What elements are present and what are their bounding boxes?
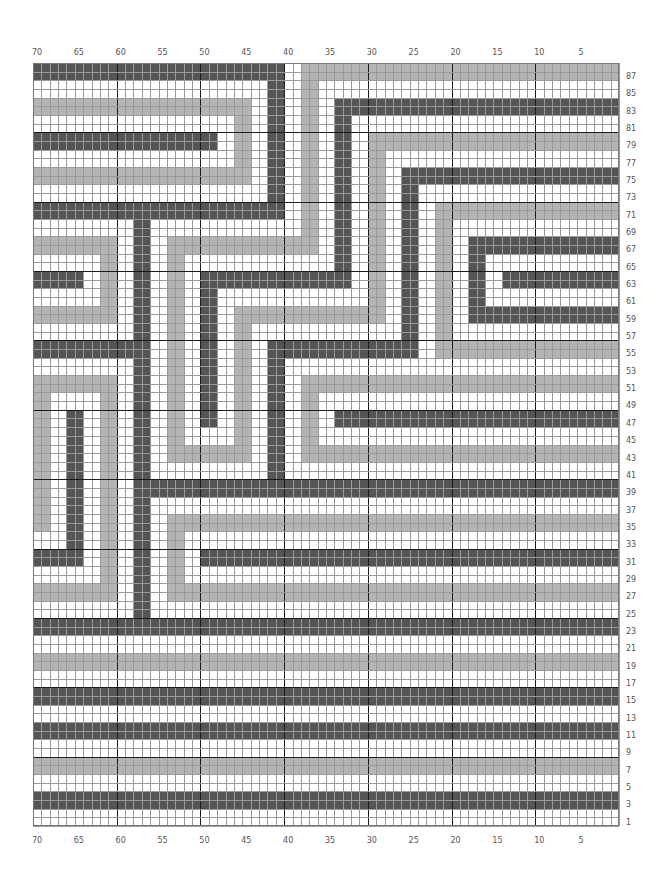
column-number-label: 45 bbox=[241, 836, 251, 845]
column-number-label: 70 bbox=[32, 836, 42, 845]
row-number-label: 79 bbox=[626, 141, 636, 150]
row-number-label: 87 bbox=[626, 72, 636, 81]
knitting-chart-grid bbox=[33, 63, 619, 826]
row-number-label: 11 bbox=[626, 730, 636, 739]
column-number-label: 35 bbox=[325, 48, 335, 57]
column-number-label: 5 bbox=[579, 836, 584, 845]
column-number-label: 55 bbox=[157, 836, 167, 845]
column-number-label: 60 bbox=[116, 836, 126, 845]
row-number-label: 47 bbox=[626, 418, 636, 427]
row-number-label: 1 bbox=[626, 817, 631, 826]
column-number-label: 60 bbox=[116, 48, 126, 57]
row-number-label: 39 bbox=[626, 488, 636, 497]
column-number-label: 55 bbox=[157, 48, 167, 57]
column-number-label: 25 bbox=[409, 48, 419, 57]
row-number-label: 19 bbox=[626, 661, 636, 670]
column-number-label: 40 bbox=[283, 836, 293, 845]
row-number-label: 17 bbox=[626, 678, 636, 687]
column-number-label: 20 bbox=[450, 836, 460, 845]
column-number-label: 5 bbox=[579, 48, 584, 57]
column-number-label: 50 bbox=[199, 836, 209, 845]
row-number-label: 43 bbox=[626, 453, 636, 462]
row-number-label: 81 bbox=[626, 124, 636, 133]
column-number-label: 30 bbox=[367, 836, 377, 845]
row-number-label: 29 bbox=[626, 574, 636, 583]
column-number-label: 40 bbox=[283, 48, 293, 57]
row-number-label: 57 bbox=[626, 332, 636, 341]
row-number-label: 53 bbox=[626, 366, 636, 375]
row-number-label: 21 bbox=[626, 644, 636, 653]
column-number-label: 65 bbox=[74, 48, 84, 57]
row-number-label: 65 bbox=[626, 262, 636, 271]
row-number-label: 25 bbox=[626, 609, 636, 618]
row-number-label: 75 bbox=[626, 176, 636, 185]
row-number-label: 7 bbox=[626, 765, 631, 774]
row-number-label: 27 bbox=[626, 592, 636, 601]
column-number-label: 50 bbox=[199, 48, 209, 57]
row-number-label: 73 bbox=[626, 193, 636, 202]
row-number-label: 67 bbox=[626, 245, 636, 254]
row-number-label: 45 bbox=[626, 436, 636, 445]
column-number-label: 10 bbox=[534, 836, 544, 845]
row-number-label: 61 bbox=[626, 297, 636, 306]
row-number-label: 77 bbox=[626, 158, 636, 167]
row-number-label: 5 bbox=[626, 782, 631, 791]
column-number-label: 10 bbox=[534, 48, 544, 57]
row-number-label: 9 bbox=[626, 748, 631, 757]
row-number-label: 33 bbox=[626, 540, 636, 549]
row-number-label: 83 bbox=[626, 106, 636, 115]
column-number-label: 65 bbox=[74, 836, 84, 845]
row-number-label: 63 bbox=[626, 280, 636, 289]
row-number-label: 15 bbox=[626, 696, 636, 705]
row-number-label: 35 bbox=[626, 522, 636, 531]
row-number-label: 23 bbox=[626, 626, 636, 635]
grid-line-vertical bbox=[619, 63, 620, 826]
column-number-label: 15 bbox=[492, 836, 502, 845]
column-number-label: 45 bbox=[241, 48, 251, 57]
row-number-label: 71 bbox=[626, 210, 636, 219]
row-number-label: 13 bbox=[626, 713, 636, 722]
grid-line-horizontal bbox=[33, 826, 619, 827]
column-number-label: 20 bbox=[450, 48, 460, 57]
row-number-label: 37 bbox=[626, 505, 636, 514]
column-number-label: 25 bbox=[409, 836, 419, 845]
column-number-label: 30 bbox=[367, 48, 377, 57]
row-number-label: 69 bbox=[626, 228, 636, 237]
row-number-label: 31 bbox=[626, 557, 636, 566]
row-number-label: 41 bbox=[626, 470, 636, 479]
row-number-label: 55 bbox=[626, 349, 636, 358]
chart-frame bbox=[33, 63, 619, 826]
column-number-label: 35 bbox=[325, 836, 335, 845]
row-number-label: 85 bbox=[626, 89, 636, 98]
row-number-label: 49 bbox=[626, 401, 636, 410]
row-number-label: 59 bbox=[626, 314, 636, 323]
row-number-label: 51 bbox=[626, 384, 636, 393]
row-number-label: 3 bbox=[626, 800, 631, 809]
column-number-label: 15 bbox=[492, 48, 502, 57]
column-number-label: 70 bbox=[32, 48, 42, 57]
